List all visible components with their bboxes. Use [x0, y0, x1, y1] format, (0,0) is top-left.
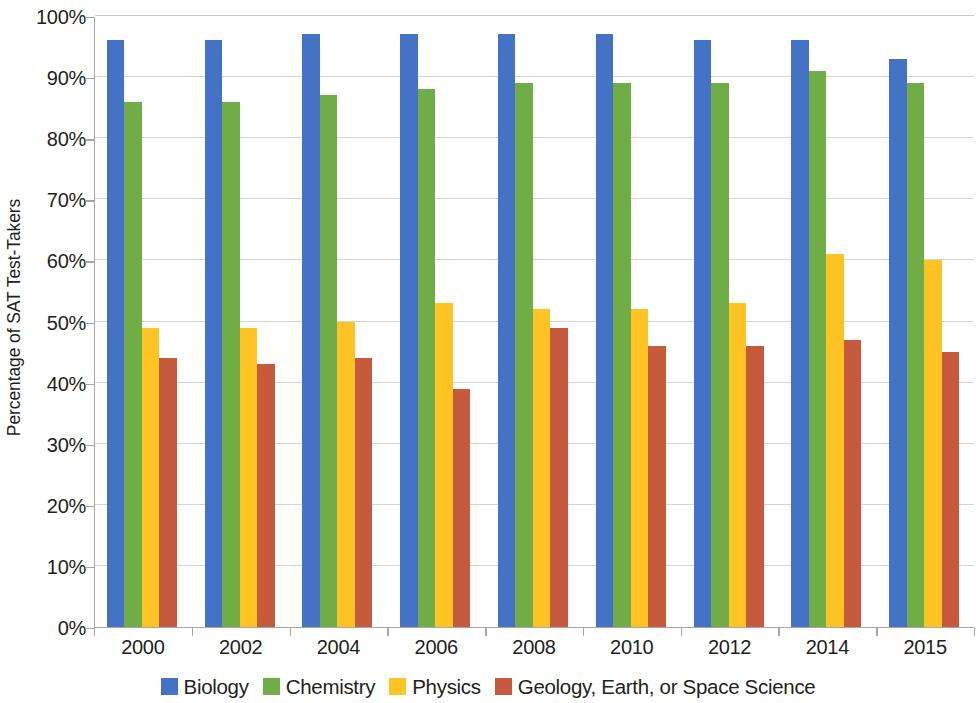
- bar[interactable]: [729, 303, 747, 627]
- x-axis-tick: [876, 628, 877, 636]
- bar-group: [486, 17, 584, 627]
- bar[interactable]: [596, 34, 614, 627]
- legend-swatch-icon: [495, 678, 512, 695]
- bar[interactable]: [205, 40, 223, 627]
- bar[interactable]: [533, 309, 551, 627]
- x-axis-tick-label: 2006: [415, 636, 458, 659]
- bar[interactable]: [694, 40, 712, 627]
- bar[interactable]: [355, 358, 373, 627]
- bar-group: [779, 17, 877, 627]
- bar-group: [388, 17, 486, 627]
- bar[interactable]: [240, 328, 258, 627]
- x-axis-tick-label: 2008: [512, 636, 555, 659]
- x-axis-tick-label: 2015: [903, 636, 946, 659]
- bar[interactable]: [418, 89, 436, 627]
- x-axis-tick-labels: 200020022004200620082010201220142015: [94, 636, 974, 668]
- bar[interactable]: [613, 83, 631, 627]
- legend-label: Geology, Earth, or Space Science: [518, 675, 816, 699]
- x-axis-tick: [681, 628, 682, 636]
- y-axis-tick: [86, 78, 94, 79]
- legend-label: Chemistry: [286, 675, 376, 699]
- y-axis-tick: [86, 567, 94, 568]
- legend-label: Physics: [412, 675, 481, 699]
- bar[interactable]: [907, 83, 925, 627]
- legend-label: Biology: [184, 675, 249, 699]
- y-axis-tick: [86, 384, 94, 385]
- legend-item[interactable]: Physics: [389, 675, 481, 699]
- bar-group: [877, 17, 975, 627]
- bar[interactable]: [826, 254, 844, 627]
- bar-group: [682, 17, 780, 627]
- x-axis-tick: [290, 628, 291, 636]
- x-axis-tick: [974, 628, 975, 636]
- bar-group: [193, 17, 291, 627]
- bar[interactable]: [107, 40, 125, 627]
- x-axis-tick-label: 2002: [219, 636, 262, 659]
- y-axis-title-text: Percentage of SAT Test-Takers: [5, 199, 26, 436]
- bar[interactable]: [711, 83, 729, 627]
- x-axis-tick-label: 2004: [317, 636, 360, 659]
- y-axis-tick-labels: 0%10%20%30%40%50%60%70%80%90%100%: [28, 0, 94, 645]
- x-axis-tick-label: 2014: [806, 636, 849, 659]
- y-axis-tick-label: 100%: [36, 6, 86, 29]
- bar[interactable]: [550, 328, 568, 627]
- bar[interactable]: [809, 71, 827, 627]
- x-axis-tick: [485, 628, 486, 636]
- y-axis-tick-label: 80%: [47, 128, 86, 151]
- bar[interactable]: [942, 352, 960, 627]
- bar[interactable]: [889, 59, 907, 627]
- y-axis-tick: [86, 628, 94, 629]
- bar[interactable]: [302, 34, 320, 627]
- y-axis-tick: [86, 261, 94, 262]
- chart-legend: BiologyChemistryPhysicsGeology, Earth, o…: [0, 670, 976, 703]
- x-axis-tick-label: 2012: [708, 636, 751, 659]
- bar[interactable]: [844, 340, 862, 627]
- y-axis-tick-label: 30%: [47, 433, 86, 456]
- x-axis-tick: [192, 628, 193, 636]
- bar[interactable]: [746, 346, 764, 627]
- bar-chart: Percentage of SAT Test-Takers 0%10%20%30…: [0, 0, 976, 703]
- legend-swatch-icon: [389, 678, 406, 695]
- y-axis-tick: [86, 445, 94, 446]
- y-axis-tick-label: 20%: [47, 494, 86, 517]
- x-axis-tick: [94, 628, 95, 636]
- bar[interactable]: [515, 83, 533, 627]
- bar[interactable]: [498, 34, 516, 627]
- y-axis-tick-label: 50%: [47, 311, 86, 334]
- bar[interactable]: [453, 389, 471, 627]
- x-axis-tick: [387, 628, 388, 636]
- bar[interactable]: [791, 40, 809, 627]
- bar-group: [291, 17, 389, 627]
- legend-swatch-icon: [263, 678, 280, 695]
- y-axis-tick: [86, 139, 94, 140]
- bar[interactable]: [142, 328, 160, 627]
- y-axis-tick-label: 0%: [58, 617, 86, 640]
- y-axis-tick: [86, 17, 94, 18]
- y-axis-tick-label: 10%: [47, 555, 86, 578]
- legend-item[interactable]: Biology: [161, 675, 249, 699]
- x-axis-tick-label: 2000: [121, 636, 164, 659]
- bar[interactable]: [435, 303, 453, 627]
- bar[interactable]: [400, 34, 418, 627]
- bar[interactable]: [222, 102, 240, 627]
- bar[interactable]: [648, 346, 666, 627]
- bar[interactable]: [257, 364, 275, 627]
- y-axis-tick-label: 70%: [47, 189, 86, 212]
- bar[interactable]: [337, 322, 355, 628]
- bar[interactable]: [159, 358, 177, 627]
- x-axis-tick: [583, 628, 584, 636]
- plot-area: [94, 17, 974, 628]
- y-axis-tick-label: 60%: [47, 250, 86, 273]
- x-axis-tick-label: 2010: [610, 636, 653, 659]
- x-axis-tick: [778, 628, 779, 636]
- bar[interactable]: [924, 260, 942, 627]
- bars-layer: [95, 17, 974, 627]
- bar[interactable]: [124, 102, 142, 627]
- bar[interactable]: [631, 309, 649, 627]
- bar[interactable]: [320, 95, 338, 627]
- y-axis-tick-label: 90%: [47, 67, 86, 90]
- legend-item[interactable]: Chemistry: [263, 675, 376, 699]
- bar-group: [95, 17, 193, 627]
- y-axis-tick: [86, 506, 94, 507]
- legend-item[interactable]: Geology, Earth, or Space Science: [495, 675, 816, 699]
